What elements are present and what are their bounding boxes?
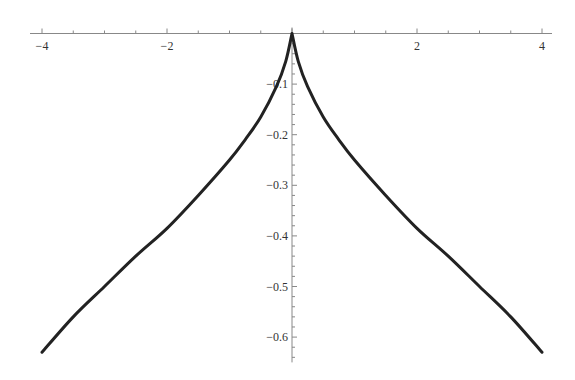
y-tick-label: −0.5 xyxy=(266,280,288,294)
x-tick-label: 4 xyxy=(539,39,545,53)
y-tick-label: −0.3 xyxy=(266,178,288,192)
y-tick-label: −0.6 xyxy=(266,330,288,344)
y-tick-label: −0.4 xyxy=(266,229,288,243)
chart: −4−224 −0.1−0.2−0.3−0.4−0.5−0.6 xyxy=(0,0,575,380)
x-tick-label: −4 xyxy=(36,39,49,53)
x-tick-label: 2 xyxy=(414,39,420,53)
x-tick-label: −2 xyxy=(161,39,174,53)
y-tick-label: −0.2 xyxy=(266,128,288,142)
